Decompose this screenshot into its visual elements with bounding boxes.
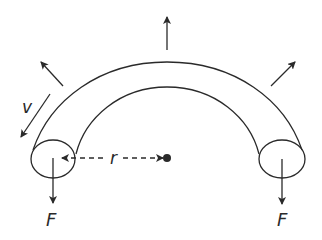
diagram-canvas: v r F F (0, 0, 322, 240)
center-dot (163, 154, 171, 162)
radial-arrow-left (41, 62, 63, 86)
force-label-right: F (277, 209, 288, 230)
tube-diagram: v r F F (0, 0, 322, 240)
tube-outer-edge (33, 62, 302, 150)
force-label-left: F (46, 209, 57, 230)
velocity-label: v (22, 97, 33, 117)
tube-inner-edge (76, 87, 259, 154)
radial-arrow-right (271, 62, 295, 86)
radius-label: r (110, 148, 118, 168)
